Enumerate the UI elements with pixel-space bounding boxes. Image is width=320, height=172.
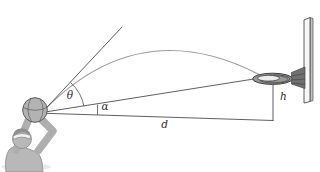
diagram-canvas: θ α d h [0, 0, 320, 172]
player-right-arm [38, 119, 53, 151]
height-label: h [280, 90, 287, 102]
rim-opening [258, 75, 280, 81]
alpha-label: α [101, 100, 108, 112]
basketball-player [5, 119, 53, 172]
basketball-rim [253, 73, 293, 84]
distance-line [42, 113, 273, 120]
trajectory-arc [42, 51, 259, 113]
basketball [23, 98, 48, 123]
rim-bracket [292, 67, 306, 89]
bracket-body [292, 67, 306, 89]
backboard [304, 18, 310, 104]
theta-label: θ [67, 89, 74, 101]
projectile-diagram: θ α d h [0, 0, 320, 172]
distance-label: d [161, 118, 168, 130]
